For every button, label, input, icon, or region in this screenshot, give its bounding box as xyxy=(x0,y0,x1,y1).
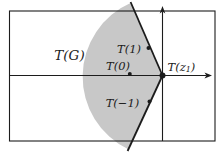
point-dot-t-1 xyxy=(147,46,151,50)
label-point-T0: T(0) xyxy=(106,59,130,73)
label-region-TG: T(G) xyxy=(54,47,84,63)
label-point-Tz1-main: T(z xyxy=(168,60,187,74)
point-dot-t-z1 xyxy=(160,73,166,79)
label-point-T1: T(1) xyxy=(117,42,141,56)
label-point-Tz1: T(z1) xyxy=(168,60,196,75)
label-point-Tminus1: T(−1) xyxy=(106,96,140,110)
label-point-Tz1-close: ) xyxy=(190,60,196,74)
point-dot-t-minus1 xyxy=(148,100,152,104)
math-figure: T(G) T(1) T(0) T(−1) T(z1) xyxy=(0,0,219,153)
shaded-sector-region xyxy=(83,3,163,150)
figure-canvas: T(G) T(1) T(0) T(−1) T(z1) xyxy=(0,0,219,153)
